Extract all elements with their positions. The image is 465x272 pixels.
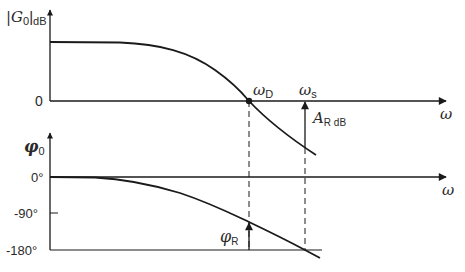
gain-margin-label: AR dB — [311, 109, 346, 128]
phase-curve — [50, 177, 320, 258]
phase-margin-label: φR — [220, 227, 238, 247]
magnitude-zero-label: 0 — [35, 93, 43, 109]
phase-axis-label: φ0 — [24, 137, 45, 157]
magnitude-plot: |G0|dB 0 ω ωD ωs AR dB — [6, 8, 452, 155]
magnitude-curve — [50, 42, 316, 155]
magnitude-x-axis-label: ω — [440, 105, 452, 123]
phase-tick-label-minus-180: -180° — [6, 243, 37, 258]
stability-frequency-label: ωs — [299, 81, 317, 100]
crossover-frequency-label: ωD — [253, 81, 273, 100]
magnitude-axis-label: |G0|dB — [6, 8, 47, 27]
phase-tick-label-minus-90: -90° — [14, 206, 38, 221]
phase-x-axis-label: ω — [442, 181, 454, 199]
bode-diagram: |G0|dB 0 ω ωD ωs AR dB — [0, 0, 465, 272]
phase-plot: φ0 0° -90° -180° ω φR — [6, 133, 454, 258]
phase-tick-label-0: 0° — [31, 170, 43, 185]
